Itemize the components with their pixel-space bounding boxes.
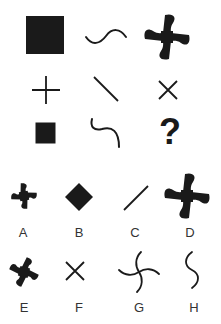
- option-f-x-cross-icon[interactable]: [64, 260, 86, 282]
- option-label: B: [67, 225, 91, 240]
- option-a-small-pinwheel-icon[interactable]: [10, 182, 38, 210]
- diagonal-line-icon: [92, 75, 120, 103]
- option-label: A: [11, 225, 35, 240]
- option-g-curved-pinwheel-icon[interactable]: [117, 250, 161, 294]
- wave-icon: [84, 26, 128, 46]
- s-curve-hook-icon: [88, 117, 124, 149]
- option-d-large-pinwheel-icon[interactable]: [161, 170, 213, 222]
- option-label: H: [182, 300, 206, 315]
- x-cross-icon: [157, 79, 179, 101]
- large-filled-square-icon: [25, 15, 65, 55]
- option-e-small-pinwheel-icon[interactable]: [8, 256, 40, 288]
- option-label: D: [178, 225, 202, 240]
- option-label: E: [12, 300, 36, 315]
- plus-cross-icon: [31, 75, 61, 105]
- option-label: C: [123, 225, 147, 240]
- option-label: F: [67, 300, 91, 315]
- large-pinwheel-icon: [141, 11, 193, 63]
- question-mark: ?: [155, 114, 185, 150]
- option-h-s-curve-icon[interactable]: [182, 250, 204, 290]
- option-c-diagonal-line-icon[interactable]: [121, 183, 151, 213]
- option-b-diamond-icon[interactable]: [64, 182, 94, 212]
- small-filled-square-icon: [35, 122, 56, 144]
- option-label: G: [127, 300, 151, 315]
